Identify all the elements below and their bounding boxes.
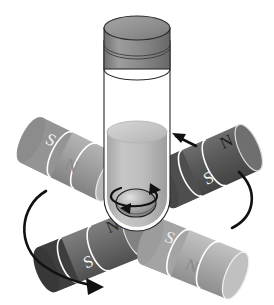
- sample-vial[interactable]: [104, 16, 170, 231]
- liquid-surface: [107, 121, 167, 143]
- figure-canvas: S N S N S N: [0, 0, 274, 305]
- vial-cap-top: [104, 16, 170, 40]
